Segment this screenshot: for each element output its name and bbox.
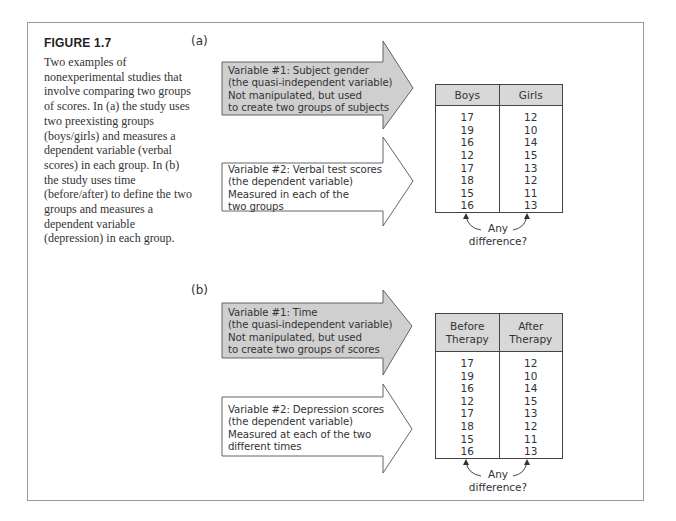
text-line: (the quasi-independent variable) [228, 319, 392, 331]
table-header: BeforeTherapy [436, 314, 499, 352]
table-cell: 16 [436, 199, 499, 212]
difference-word: Any [468, 222, 528, 235]
text-line: Measured in each of the [228, 189, 382, 201]
arrowhead-b-left [463, 459, 469, 465]
table-cell: 17 [436, 357, 499, 370]
table-cell: 13 [500, 162, 563, 175]
arrowhead-a-right [524, 213, 530, 219]
table-cell: 16 [436, 445, 499, 458]
table-cell: 12 [436, 395, 499, 408]
difference-word: difference? [468, 235, 528, 248]
text-line: (the dependent variable) [228, 176, 382, 188]
arrow-b-dependent-text: Variable #2: Depression scores (the depe… [228, 404, 384, 453]
table-cell: 15 [436, 433, 499, 446]
table-a: Boys 17 19 16 12 17 18 15 16 Girls 12 10… [435, 84, 563, 213]
table-cell: 16 [436, 136, 499, 149]
table-b-col-before: BeforeTherapy 17 19 16 12 17 18 15 16 [436, 314, 499, 458]
text-line: Not manipulated, but used [228, 332, 392, 344]
table-cell: 13 [500, 199, 563, 212]
table-cell: 12 [500, 111, 563, 124]
table-values: 17 19 16 12 17 18 15 16 [436, 106, 499, 212]
difference-label-a: Any difference? [468, 222, 528, 247]
header-line: Therapy [509, 333, 552, 345]
text-line: Variable #1: Time [228, 307, 392, 319]
header-line: After [518, 320, 543, 332]
table-cell: 18 [436, 420, 499, 433]
table-values: 17 19 16 12 17 18 15 16 [436, 352, 499, 458]
text-line: Not manipulated, but used [228, 90, 392, 102]
table-cell: 17 [436, 162, 499, 175]
table-cell: 12 [500, 357, 563, 370]
table-cell: 17 [436, 407, 499, 420]
table-header: Boys [436, 85, 499, 106]
text-line: (the quasi-independent variable) [228, 77, 392, 89]
table-header: Girls [500, 85, 563, 106]
table-cell: 11 [500, 187, 563, 200]
table-cell: 15 [500, 149, 563, 162]
arrow-a-dependent-text: Variable #2: Verbal test scores (the dep… [228, 164, 382, 213]
arrowhead-b-right [524, 459, 530, 465]
arrowhead-a-left [463, 213, 469, 219]
table-header: AfterTherapy [500, 314, 563, 352]
table-cell: 12 [500, 174, 563, 187]
table-cell: 15 [436, 187, 499, 200]
table-cell: 10 [500, 124, 563, 137]
table-cell: 19 [436, 124, 499, 137]
table-cell: 11 [500, 433, 563, 446]
arrow-b-independent-text: Variable #1: Time (the quasi-independent… [228, 307, 392, 356]
text-line: two groups [228, 201, 382, 213]
text-line: Variable #2: Depression scores [228, 404, 384, 416]
table-cell: 13 [500, 445, 563, 458]
text-line: to create two groups of scores [228, 344, 392, 356]
table-cell: 12 [436, 149, 499, 162]
text-line: Variable #1: Subject gender [228, 65, 392, 77]
table-a-col-boys: Boys 17 19 16 12 17 18 15 16 [436, 85, 499, 212]
table-b: BeforeTherapy 17 19 16 12 17 18 15 16 Af… [435, 313, 563, 459]
table-b-col-after: AfterTherapy 12 10 14 15 13 12 11 13 [499, 314, 563, 458]
text-line: different times [228, 441, 384, 453]
header-line: Therapy [446, 333, 489, 345]
table-values: 12 10 14 15 13 12 11 13 [500, 352, 563, 458]
table-cell: 14 [500, 382, 563, 395]
table-cell: 17 [436, 111, 499, 124]
table-a-col-girls: Girls 12 10 14 15 13 12 11 13 [499, 85, 563, 212]
text-line: to create two groups of subjects [228, 102, 392, 114]
text-line: (the dependent variable) [228, 416, 384, 428]
table-cell: 18 [436, 174, 499, 187]
table-cell: 12 [500, 420, 563, 433]
arrow-a-independent-text: Variable #1: Subject gender (the quasi-i… [228, 65, 392, 114]
text-line: Variable #2: Verbal test scores [228, 164, 382, 176]
text-line: Measured at each of the two [228, 429, 384, 441]
difference-label-b: Any difference? [468, 468, 528, 493]
table-values: 12 10 14 15 13 12 11 13 [500, 106, 563, 212]
table-cell: 16 [436, 382, 499, 395]
table-cell: 10 [500, 370, 563, 383]
difference-word: Any [468, 468, 528, 481]
table-cell: 14 [500, 136, 563, 149]
table-cell: 15 [500, 395, 563, 408]
difference-word: difference? [468, 481, 528, 494]
table-cell: 13 [500, 407, 563, 420]
table-cell: 19 [436, 370, 499, 383]
header-line: Before [450, 320, 484, 332]
